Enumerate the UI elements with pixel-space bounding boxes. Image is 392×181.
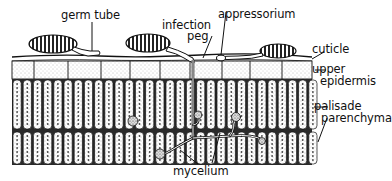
label-parenchyma: parenchyma (321, 112, 392, 124)
leaf-tissue (12, 54, 317, 165)
label-appressorium: appressorium (218, 8, 295, 20)
spore-3 (216, 44, 296, 61)
label-germ-tube: germ tube (61, 9, 120, 21)
appressorium-body (217, 55, 226, 61)
label-mycelium: mycelium (173, 165, 229, 177)
label-epidermis: epidermis (320, 75, 376, 87)
label-cuticle: cuticle (312, 43, 349, 55)
leaf-infection-diagram: germ tube infection peg appressorium cut… (0, 0, 392, 181)
spore-1 (29, 35, 100, 56)
label-peg: peg (187, 30, 208, 42)
upper-epidermis (12, 61, 312, 79)
